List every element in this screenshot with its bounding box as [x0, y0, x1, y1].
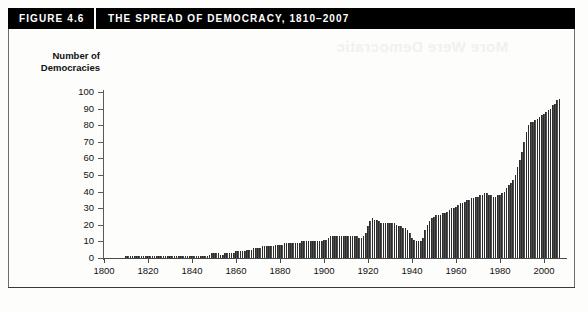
x-tick-label-1980: 1980: [480, 265, 520, 276]
y-tick-label-70: 70: [52, 136, 94, 147]
y-tick-label-100: 100: [52, 86, 94, 97]
y-tick-label-80: 80: [52, 119, 94, 130]
y-tick-label-60: 60: [52, 152, 94, 163]
y-tick-label-40: 40: [52, 186, 94, 197]
x-tick-label-1900: 1900: [304, 265, 344, 276]
x-tick-1820: [148, 258, 149, 263]
figure-page: More Were Democratic FIGURE 4.6 THE SPRE…: [0, 0, 588, 312]
x-tick-2000: [544, 258, 545, 263]
plot-area: [104, 92, 566, 258]
y-tick-label-20: 20: [52, 219, 94, 230]
x-axis-line: [103, 258, 567, 259]
x-tick-label-1820: 1820: [128, 265, 168, 276]
x-tick-label-2000: 2000: [524, 265, 564, 276]
bar: [559, 99, 561, 258]
x-tick-1840: [192, 258, 193, 263]
x-tick-1800: [104, 258, 105, 263]
x-tick-1860: [236, 258, 237, 263]
x-tick-label-1940: 1940: [392, 265, 432, 276]
bar-chart: Number of Democracies 010203040506070809…: [0, 0, 588, 312]
x-tick-label-1800: 1800: [84, 265, 124, 276]
x-tick-1880: [280, 258, 281, 263]
x-tick-1940: [412, 258, 413, 263]
x-tick-label-1920: 1920: [348, 265, 388, 276]
y-tick-label-30: 30: [52, 202, 94, 213]
y-tick-label-50: 50: [52, 169, 94, 180]
x-tick-1980: [500, 258, 501, 263]
y-axis-title: Number of Democracies: [18, 50, 100, 73]
x-tick-label-1840: 1840: [172, 265, 212, 276]
x-tick-1900: [324, 258, 325, 263]
x-tick-label-1880: 1880: [260, 265, 300, 276]
x-tick-label-1960: 1960: [436, 265, 476, 276]
y-tick-label-10: 10: [52, 235, 94, 246]
y-tick-label-0: 0: [52, 252, 94, 263]
x-tick-1960: [456, 258, 457, 263]
x-tick-label-1860: 1860: [216, 265, 256, 276]
x-tick-1920: [368, 258, 369, 263]
y-tick-label-90: 90: [52, 103, 94, 114]
